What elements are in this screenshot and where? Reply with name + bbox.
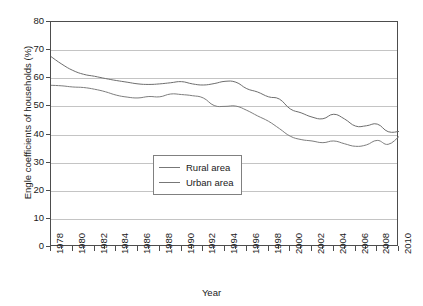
x-tick-label-2006: 2006	[359, 233, 370, 254]
x-tick-label-1986: 1986	[141, 233, 152, 254]
x-tick-label-1992: 1992	[206, 233, 217, 254]
chart-figure: Engle coefficients of households (%) 010…	[0, 0, 423, 306]
x-tick-label-1990: 1990	[185, 233, 196, 254]
x-tick-mark-2002	[311, 246, 312, 251]
legend-label-rural: Rural area	[186, 163, 230, 173]
y-axis-title: Engle coefficients of households (%)	[22, 8, 33, 238]
y-tick-label-80: 80	[20, 16, 44, 26]
x-tick-mark-1990	[181, 246, 182, 251]
x-tick-label-1982: 1982	[98, 233, 109, 254]
legend-label-urban: Urban area	[186, 178, 234, 188]
legend-swatch-rural	[159, 167, 180, 168]
x-tick-mark-1984	[115, 246, 116, 251]
legend-item-urban: Urban area	[159, 175, 234, 190]
chart-legend: Rural area Urban area	[153, 155, 242, 195]
x-tick-mark-2006	[355, 246, 356, 251]
x-tick-mark-1986	[137, 246, 138, 251]
x-tick-mark-1978	[50, 246, 51, 251]
x-tick-label-2002: 2002	[315, 233, 326, 254]
x-tick-label-1980: 1980	[76, 233, 87, 254]
x-tick-mark-2000	[289, 246, 290, 251]
x-tick-label-2000: 2000	[293, 233, 304, 254]
x-tick-mark-1982	[94, 246, 95, 251]
x-tick-label-1988: 1988	[163, 233, 174, 254]
y-tick-label-50: 50	[20, 100, 44, 110]
x-tick-label-1996: 1996	[250, 233, 261, 254]
x-tick-mark-1992	[202, 246, 203, 251]
series-line-urban-area	[51, 85, 399, 146]
x-tick-label-2004: 2004	[337, 233, 348, 254]
x-tick-mark-2008	[376, 246, 377, 251]
y-tick-label-10: 10	[20, 213, 44, 223]
plot-area	[50, 21, 398, 246]
x-tick-label-1994: 1994	[228, 233, 239, 254]
x-tick-label-2010: 2010	[402, 233, 413, 254]
x-tick-mark-2010	[398, 246, 399, 251]
y-tick-label-70: 70	[20, 44, 44, 54]
x-tick-mark-1998	[268, 246, 269, 251]
legend-item-rural: Rural area	[159, 160, 234, 175]
x-tick-label-1984: 1984	[119, 233, 130, 254]
series-layer	[51, 22, 399, 247]
series-line-rural-area	[51, 57, 399, 133]
x-tick-mark-1996	[246, 246, 247, 251]
x-tick-mark-1994	[224, 246, 225, 251]
x-tick-mark-1988	[159, 246, 160, 251]
y-tick-label-60: 60	[20, 72, 44, 82]
x-axis-title: Year	[0, 287, 423, 298]
y-tick-label-0: 0	[20, 241, 44, 251]
x-tick-mark-1980	[72, 246, 73, 251]
y-tick-label-20: 20	[20, 185, 44, 195]
x-tick-label-1978: 1978	[54, 233, 65, 254]
legend-swatch-urban	[159, 182, 180, 183]
x-tick-label-2008: 2008	[380, 233, 391, 254]
y-tick-label-30: 30	[20, 157, 44, 167]
x-tick-label-1998: 1998	[272, 233, 283, 254]
x-tick-mark-2004	[333, 246, 334, 251]
y-tick-label-40: 40	[20, 129, 44, 139]
